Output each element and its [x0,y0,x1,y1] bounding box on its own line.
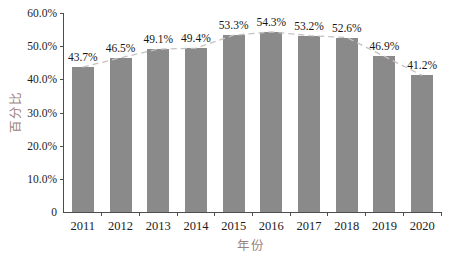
bar [373,56,395,212]
bar [336,38,358,212]
x-axis-tick-mark [290,212,291,216]
bar [110,58,132,212]
x-axis-category-label: 2014 [183,219,208,234]
x-axis-tick-mark [101,212,102,216]
x-axis-tick-mark [252,212,253,216]
x-axis-category-label: 2016 [259,219,284,234]
bar [72,67,94,212]
x-axis-tick-mark [214,212,215,216]
x-axis-category-label: 2020 [410,219,435,234]
y-axis-tick-label: 20.0% [27,140,57,152]
y-axis-tick-mark [60,13,64,14]
x-axis-tick-mark [177,212,178,216]
y-axis-tick-label: 30.0% [27,107,57,119]
x-axis-category-label: 2015 [221,219,246,234]
bar [298,36,320,212]
x-axis-tick-mark [139,212,140,216]
x-axis-category-label: 2019 [372,219,397,234]
y-axis-tick-label: 60.0% [27,7,57,19]
bar-value-label: 49.1% [143,33,173,45]
x-axis-category-label: 2012 [108,219,133,234]
x-axis-tick-mark [403,212,404,216]
bar [260,32,282,212]
y-axis-tick-label: 10.0% [27,173,57,185]
plot-area: 010.0%20.0%30.0%40.0%50.0%60.0%201143.7%… [63,13,441,213]
y-axis-tick-mark [60,46,64,47]
x-axis-title: 年份 [237,235,265,254]
x-axis-tick-mark [441,212,442,216]
x-axis-category-label: 2013 [146,219,171,234]
y-axis-tick-label: 0 [51,206,57,218]
y-axis-tick-mark [60,113,64,114]
y-axis-tick-mark [60,179,64,180]
y-axis-tick-label: 40.0% [27,73,57,85]
bar [147,49,169,212]
bar-value-label: 49.4% [181,32,211,44]
y-axis-tick-mark [60,79,64,80]
bar-value-label: 52.6% [332,22,362,34]
bar-value-label: 41.2% [407,59,437,71]
y-axis-tick-label: 50.0% [27,40,57,52]
bar-value-label: 53.2% [294,20,324,32]
bar-value-label: 46.5% [106,42,136,54]
x-axis-category-label: 2011 [71,219,96,234]
bar-value-label: 43.7% [68,51,98,63]
bar [185,48,207,212]
bar-value-label: 46.9% [370,40,400,52]
bar-value-label: 54.3% [256,16,286,28]
x-axis-tick-mark [327,212,328,216]
y-axis-tick-mark [60,146,64,147]
x-axis-category-label: 2018 [334,219,359,234]
bar [223,35,245,212]
bar-value-label: 53.3% [219,19,249,31]
bar [411,75,433,212]
y-axis-title: 百分比 [5,91,24,133]
x-axis-category-label: 2017 [297,219,322,234]
x-axis-tick-mark [365,212,366,216]
bar-chart-figure: 百分比 010.0%20.0%30.0%40.0%50.0%60.0%20114… [0,0,457,258]
